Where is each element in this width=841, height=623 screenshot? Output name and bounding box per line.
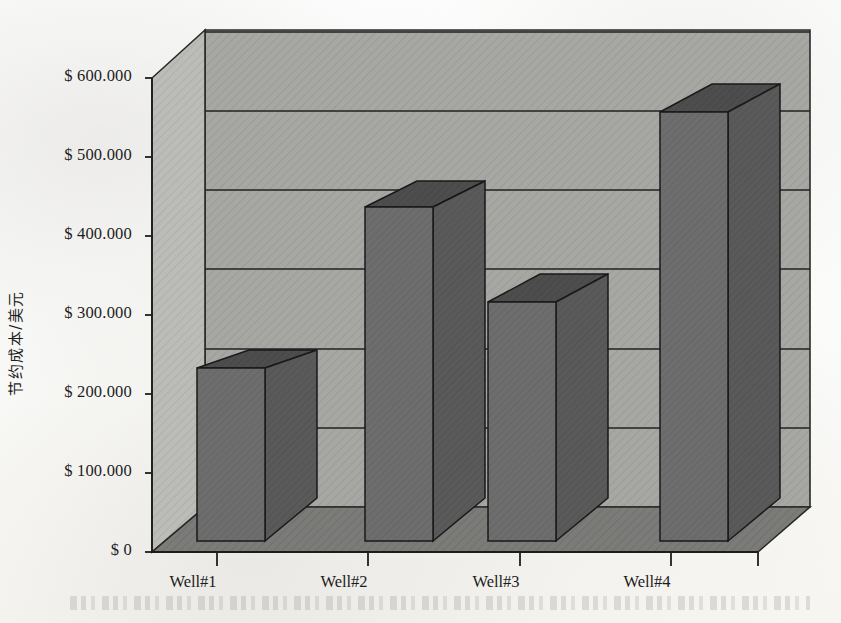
y-tick-label-0: $ 0 bbox=[12, 540, 132, 560]
x-tick-label-well-1: Well#1 bbox=[123, 572, 263, 592]
bar-well-3-front bbox=[488, 302, 556, 541]
chart-page: $ 600.000 $ 500.000 $ 400.000 $ 300.000 … bbox=[0, 0, 841, 623]
bar-well-4[interactable] bbox=[660, 84, 780, 541]
y-axis-title: 节约成本/美元 bbox=[4, 243, 25, 443]
x-tick-label-well-4: Well#4 bbox=[577, 572, 717, 592]
bar-well-2[interactable] bbox=[365, 181, 485, 541]
bar-well-1-front bbox=[197, 368, 265, 541]
y-tick-label-600000: $ 600.000 bbox=[12, 66, 132, 86]
y-tick-label-500000: $ 500.000 bbox=[12, 145, 132, 165]
bar-well-2-front bbox=[365, 207, 433, 541]
y-axis-ticks bbox=[145, 78, 152, 552]
bar-well-4-side bbox=[728, 84, 780, 541]
bar-well-4-front bbox=[660, 112, 728, 541]
bar-well-3-side bbox=[556, 274, 608, 541]
y-tick-label-100000: $ 100.000 bbox=[12, 461, 132, 481]
y-tick-label-300000: $ 300.000 bbox=[12, 303, 132, 323]
bar-well-1[interactable] bbox=[197, 350, 317, 541]
y-tick-label-400000: $ 400.000 bbox=[12, 224, 132, 244]
bar-well-2-side bbox=[433, 181, 485, 541]
x-tick-label-well-2: Well#2 bbox=[274, 572, 414, 592]
x-axis-ticks bbox=[217, 552, 758, 566]
x-tick-label-well-3: Well#3 bbox=[426, 572, 566, 592]
y-tick-label-200000: $ 200.000 bbox=[12, 382, 132, 402]
bar-well-3[interactable] bbox=[488, 274, 608, 541]
